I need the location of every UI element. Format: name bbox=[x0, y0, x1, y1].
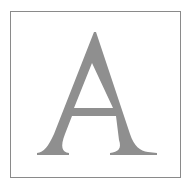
letter-a-glyph bbox=[0, 0, 190, 190]
letter-a-shape bbox=[37, 32, 157, 155]
